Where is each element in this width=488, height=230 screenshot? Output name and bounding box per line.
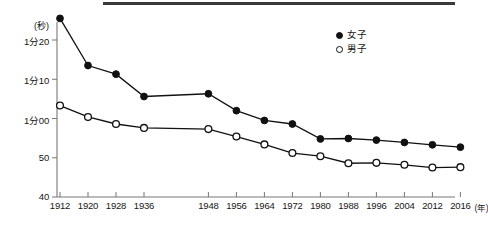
y-axis-tick-label: 40 (0, 191, 49, 202)
data-point-marker (141, 93, 148, 100)
legend-label-women: 女子 (347, 28, 367, 42)
x-axis-tick-label: 2016 (446, 200, 474, 211)
x-axis-tick-label: 1964 (250, 200, 278, 211)
data-point-marker (85, 114, 92, 121)
y-axis-tick-label: 1分00 (0, 113, 49, 127)
chart-legend: 女子 男子 (336, 28, 367, 56)
data-point-marker (401, 139, 408, 146)
data-point-marker (289, 121, 296, 128)
data-point-marker (113, 71, 120, 78)
x-axis-tick-label: 1920 (74, 200, 102, 211)
data-point-marker (85, 62, 92, 69)
legend-item-women: 女子 (336, 28, 367, 42)
x-axis-unit-label: (年) (474, 201, 488, 213)
data-point-marker (261, 117, 268, 124)
x-axis-tick-label: 1988 (334, 200, 362, 211)
data-point-marker (457, 144, 464, 151)
x-axis-tick-label: 2004 (390, 200, 418, 211)
y-axis-tick-label: 1分10 (0, 73, 49, 87)
series-line-women (60, 18, 460, 147)
data-point-marker (205, 90, 212, 97)
data-point-marker (345, 135, 352, 142)
x-axis-tick-label: 1936 (130, 200, 158, 211)
data-point-marker (317, 136, 324, 143)
x-axis-tick-label: 2012 (418, 200, 446, 211)
data-point-marker (429, 164, 436, 171)
data-point-marker (317, 153, 324, 160)
data-point-marker (345, 160, 352, 167)
series-line-men (60, 106, 460, 168)
data-point-marker (233, 133, 240, 140)
data-point-marker (261, 141, 268, 148)
filled-circle-marker-icon (336, 32, 343, 39)
data-point-marker (57, 15, 64, 22)
data-point-marker (289, 150, 296, 157)
x-axis-tick-label: 1956 (222, 200, 250, 211)
data-point-marker (113, 121, 120, 128)
legend-item-men: 男子 (336, 42, 367, 56)
data-point-marker (401, 161, 408, 168)
data-point-marker (141, 125, 148, 132)
y-axis-tick-label: 50 (0, 152, 49, 163)
x-axis-tick-label: 1972 (278, 200, 306, 211)
legend-label-men: 男子 (347, 42, 367, 56)
data-point-marker (457, 164, 464, 171)
x-axis-tick-label: 1980 (306, 200, 334, 211)
x-axis-tick-label: 1948 (194, 200, 222, 211)
x-axis-tick-label: 1912 (46, 200, 74, 211)
y-axis-tick-label: 1分20 (0, 34, 49, 48)
x-axis-ticks (60, 192, 460, 197)
x-axis-tick-label: 1928 (102, 200, 130, 211)
x-axis-tick-label: 1996 (362, 200, 390, 211)
y-axis-unit-label: (秒) (34, 19, 49, 32)
open-circle-marker-icon (336, 46, 343, 53)
data-point-marker (373, 137, 380, 144)
data-point-marker (373, 159, 380, 166)
data-point-marker (429, 141, 436, 148)
data-point-marker (57, 102, 64, 109)
data-point-marker (233, 107, 240, 114)
data-point-marker (205, 126, 212, 133)
chart-series-layer (57, 15, 464, 171)
y-axis-ticks (52, 40, 57, 197)
chart-axes (57, 22, 455, 197)
